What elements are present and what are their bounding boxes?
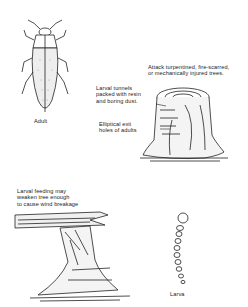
wind-breakage-label: Larval feeding may weaken tree enough to… [17,188,78,207]
adult-label: Adult [34,118,47,124]
adult-beetle-drawing [22,20,68,112]
exit-holes-label: Elliptical exit holes of adults [99,121,137,134]
larva-label: Larva [170,291,185,297]
broken-tree-drawing [15,212,130,301]
larva-drawing [174,213,188,284]
stump-drawing [140,88,228,161]
tunnels-label: Larval tunnels packed with resin and bor… [96,85,141,104]
attack-label: Attack turpentined, fire-scarred, or mec… [148,64,229,77]
illustration [0,0,248,307]
